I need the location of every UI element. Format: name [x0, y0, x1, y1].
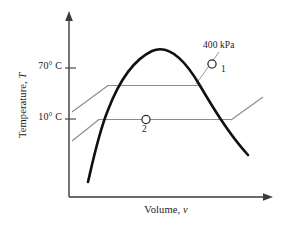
pressure-leader-line [196, 52, 219, 84]
y-axis-ticks [65, 68, 76, 119]
y-tick-label-70c: 70° C [18, 61, 62, 71]
y-axis-title-prefix: Temperature, [17, 79, 28, 138]
state-label-1: 1 [221, 65, 226, 75]
isobar-upper-left-tail [72, 86, 108, 113]
y-axis-title: Temperature, T [18, 25, 29, 185]
x-axis-title-prefix: Volume, [144, 204, 183, 215]
y-tick-label-10c: 10° C [18, 112, 62, 122]
x-axis [69, 193, 273, 201]
state-marker-1 [208, 60, 216, 68]
x-axis-arrow-icon [263, 193, 273, 201]
isobar-lower-right-tail [231, 97, 263, 120]
x-axis-title: Volume, v [118, 205, 214, 216]
isobar-lower-left-tail [72, 120, 99, 142]
x-axis-title-variable: v [183, 204, 188, 215]
isobar-upper [72, 86, 200, 113]
pressure-annotation-label: 400 kPa [203, 41, 235, 51]
y-axis [65, 11, 73, 197]
y-axis-arrow-icon [65, 11, 73, 21]
t-v-diagram-figure: Temperature, T Volume, v 70° C 10° C 400… [0, 0, 289, 228]
y-axis-title-variable: T [17, 73, 28, 79]
state-marker-2 [142, 115, 150, 123]
state-label-2: 2 [142, 125, 147, 135]
